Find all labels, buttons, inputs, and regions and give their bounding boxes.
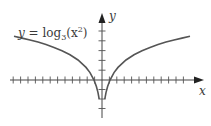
function-label: y = log3(x2) [17, 25, 88, 42]
y-axis [99, 13, 106, 118]
log-function-plot: x y y = log3(x2) [0, 0, 211, 126]
curve-right-branch [105, 36, 190, 99]
x-axis-arrow-icon [194, 77, 204, 84]
y-axis-arrow-icon [99, 13, 106, 23]
y-axis-label: y [108, 9, 116, 23]
curve-left-branch [14, 36, 99, 99]
x-axis [10, 77, 204, 84]
x-axis-label: x [199, 84, 206, 98]
